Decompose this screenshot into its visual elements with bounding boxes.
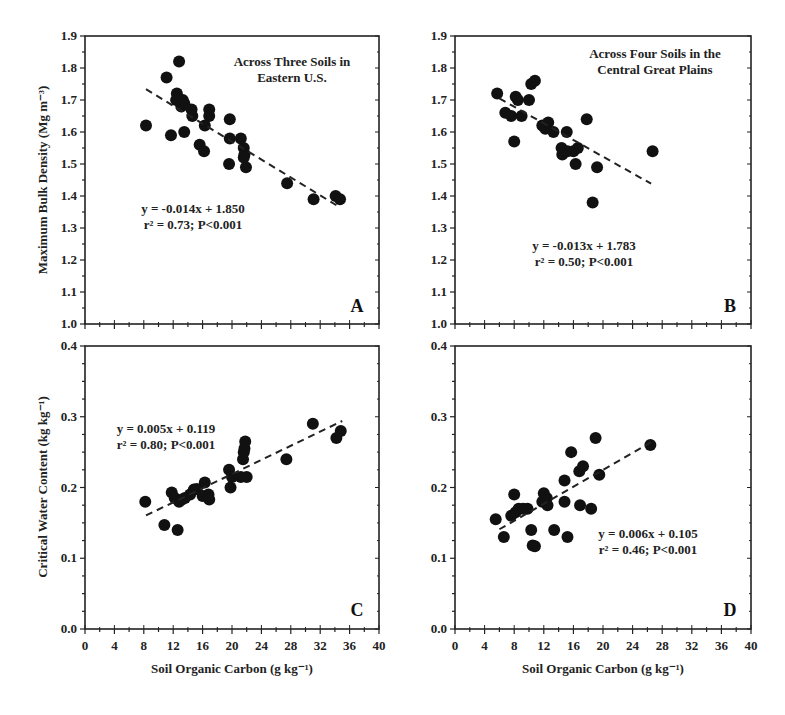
x-tick-label: 24	[255, 638, 269, 653]
panel-b-stats: r² = 0.50; P<0.001	[535, 254, 634, 269]
y-tick-label: 1.9	[431, 28, 448, 43]
panel-c: 04812162024283236400.00.10.20.30.4 y = 0…	[61, 338, 386, 653]
panel-d-equation: y = 0.006x + 0.105	[598, 526, 698, 541]
y-tick-label: 0.1	[61, 550, 77, 565]
data-point	[585, 503, 597, 515]
panel-d-stats: r² = 0.46; P<0.001	[599, 542, 698, 557]
y-tick-label: 1.0	[61, 316, 77, 331]
y-tick-label: 0.2	[61, 480, 77, 495]
y-tick-label: 1.3	[431, 220, 448, 235]
y-axis-title-bottom: Critical Water Content (kg kg⁻¹)	[35, 396, 50, 578]
y-axis-title-top: Maximum Bulk Density (Mg m⁻³)	[35, 86, 50, 275]
y-tick-label: 0.2	[431, 480, 447, 495]
data-point	[178, 126, 190, 138]
panel-b-regression-line	[499, 98, 651, 183]
panel-b-equation: y = -0.013x + 1.783	[532, 238, 636, 253]
y-tick-label: 0.3	[61, 409, 78, 424]
data-point	[280, 453, 292, 465]
x-tick-label: 24	[626, 638, 640, 653]
data-point	[161, 72, 173, 84]
data-point	[139, 496, 151, 508]
x-tick-label: 20	[226, 638, 239, 653]
x-tick-label: 40	[373, 638, 386, 653]
data-point	[590, 432, 602, 444]
panel-b-title-line-2: Central Great Plains	[597, 62, 712, 77]
x-axis-title-right: Soil Organic Carbon (g kg⁻¹)	[522, 661, 684, 676]
data-point	[490, 513, 502, 525]
y-tick-label: 1.8	[431, 60, 448, 75]
x-axis-title-left: Soil Organic Carbon (g kg⁻¹)	[151, 661, 313, 676]
x-tick-label: 40	[745, 638, 758, 653]
panel-a-stats: r² = 0.73; P<0.001	[144, 217, 243, 232]
data-point	[240, 161, 252, 173]
panel-a-letter: A	[351, 296, 364, 316]
panel-a-title-line-1: Across Three Soils in	[234, 54, 351, 69]
data-point	[140, 120, 152, 132]
x-tick-label: 36	[715, 638, 729, 653]
panel-a-regression-line	[146, 89, 340, 207]
panel-b-letter: B	[724, 296, 736, 316]
x-tick-label: 28	[284, 638, 298, 653]
figure-canvas: 1.01.11.21.31.41.51.61.71.81.9 Across Th…	[0, 0, 785, 715]
panel-a-equation: y = -0.014x + 1.850	[141, 201, 245, 216]
data-point	[572, 142, 584, 154]
x-tick-label: 32	[685, 638, 698, 653]
y-tick-label: 1.5	[61, 156, 78, 171]
y-tick-label: 1.1	[431, 284, 447, 299]
data-point	[241, 471, 253, 483]
panel-c-axes: 04812162024283236400.00.10.20.30.4	[61, 338, 386, 653]
plot-frame	[455, 36, 751, 324]
x-tick-label: 0	[452, 638, 459, 653]
data-point	[334, 193, 346, 205]
data-point	[172, 524, 184, 536]
x-tick-label: 12	[537, 638, 550, 653]
y-tick-label: 1.1	[61, 284, 77, 299]
data-point	[335, 425, 347, 437]
data-point	[225, 482, 237, 494]
panel-d-letter: D	[724, 600, 737, 620]
data-point	[574, 499, 586, 511]
data-point	[307, 418, 319, 430]
panel-a-title-line-2: Eastern U.S.	[257, 70, 327, 85]
y-tick-label: 0.0	[431, 621, 447, 636]
data-point	[587, 196, 599, 208]
data-point	[559, 496, 571, 508]
data-point	[198, 145, 210, 157]
data-point	[647, 145, 659, 157]
data-point	[158, 519, 170, 531]
data-point	[548, 524, 560, 536]
y-tick-label: 1.8	[61, 60, 78, 75]
data-point	[591, 161, 603, 173]
data-point	[281, 177, 293, 189]
data-point	[239, 436, 251, 448]
y-tick-label: 1.3	[61, 220, 78, 235]
x-tick-label: 16	[567, 638, 581, 653]
data-point	[559, 474, 571, 486]
panel-d-axes: 04812162024283236400.00.10.20.30.4	[431, 338, 758, 653]
data-point	[512, 94, 524, 106]
data-point	[203, 110, 215, 122]
x-tick-label: 4	[111, 638, 118, 653]
panel-b-title-line-1: Across Four Soils in the	[589, 46, 721, 61]
data-point	[308, 193, 320, 205]
y-tick-label: 0.4	[431, 338, 448, 353]
data-point	[577, 460, 589, 472]
y-tick-label: 1.5	[431, 156, 448, 171]
x-tick-label: 28	[656, 638, 670, 653]
y-tick-label: 0.1	[431, 550, 447, 565]
y-tick-label: 0.3	[431, 409, 448, 424]
data-point	[165, 129, 177, 141]
y-tick-label: 1.6	[61, 124, 78, 139]
data-point	[529, 75, 541, 87]
x-tick-label: 0	[82, 638, 89, 653]
data-point	[561, 531, 573, 543]
x-tick-label: 8	[141, 638, 148, 653]
y-tick-label: 1.7	[61, 92, 78, 107]
y-tick-label: 1.2	[431, 252, 447, 267]
x-tick-label: 32	[314, 638, 327, 653]
panel-a: 1.01.11.21.31.41.51.61.71.81.9 Across Th…	[61, 28, 379, 331]
data-point	[173, 56, 185, 68]
panel-b: 1.01.11.21.31.41.51.61.71.81.9 Across Fo…	[431, 28, 751, 331]
data-point	[508, 136, 520, 148]
y-tick-label: 0.4	[61, 338, 78, 353]
